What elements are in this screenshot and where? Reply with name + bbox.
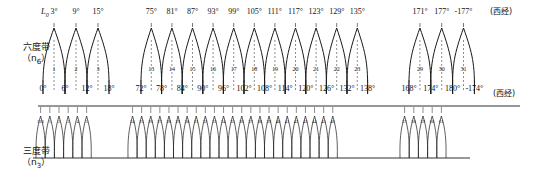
three-degree-zone-number-17: 35 [230,120,235,125]
zone-boundary-label-13: 126° [319,85,334,93]
six-degree-zone-number-12: 22 [334,66,340,72]
three-degree-zone-number-7: 25 [139,120,144,125]
zone-boundary-label-7: 90° [197,85,208,93]
central-meridian-label-0: 3° [51,8,58,16]
origin-meridian-label: L0 [41,7,49,18]
three-degree-zone-number-21: 39 [267,120,272,125]
three-degree-zone-number-33: 61 [439,120,444,125]
three-degree-zone-number-20: 38 [257,120,262,125]
three-degree-zone-number-11: 29 [176,120,181,125]
zone-boundary-label-14: 132° [340,85,355,93]
zone-diagram-canvas [0,0,538,194]
six-degree-zone-number-0: 1 [53,66,56,72]
six-degree-zone-number-7: 17 [231,66,237,72]
three-degree-zone-number-16: 34 [221,120,226,125]
zone-boundary-label-9: 102° [237,85,252,93]
three-degree-zone-number-27: 45 [321,120,326,125]
west-longitude-note-mid: (西经) [493,90,515,98]
three-degree-zone-number-8: 26 [148,120,153,125]
central-meridian-label-13: 135° [350,8,365,16]
zone-boundary-label-6: 84° [177,85,188,93]
six-degree-zone-number-2: 3 [97,66,100,72]
three-degree-zone-number-9: 27 [157,120,162,125]
central-meridian-label-8: 105° [247,8,262,16]
central-meridian-label-3: 75° [146,8,157,16]
central-meridian-label-15: 177° [434,8,449,16]
three-degree-zone-number-2: 2 [58,120,60,125]
three-degree-zone-number-1: 1 [49,120,51,125]
zone-boundary-label-10: 108° [257,85,272,93]
three-degree-zone-number-14: 32 [203,120,208,125]
zone-boundary-label-19: -174° [465,85,483,93]
three-degree-zone-number-19: 37 [248,120,253,125]
central-meridian-label-10: 117° [288,8,303,16]
three-degree-zone-number-18: 36 [239,120,244,125]
zone-boundary-label-1: 6° [62,85,69,93]
three-degree-row-label-sub: （n3） [6,157,66,171]
zone-boundary-label-2: 12° [82,85,93,93]
three-degree-row-label-main: 三度带 [6,146,66,157]
six-degree-zone-number-8: 18 [251,66,257,72]
six-degree-row-label-main: 六度带 [6,42,66,53]
six-degree-zone-number-6: 16 [210,66,216,72]
three-degree-zone-number-26: 44 [312,120,317,125]
six-degree-zone-number-13: 23 [354,66,360,72]
three-degree-zone-number-5: 5 [86,120,88,125]
central-meridian-label-2: 15° [93,8,104,16]
three-degree-zone-number-13: 31 [194,120,199,125]
three-degree-zone-number-15: 33 [212,120,217,125]
central-meridian-label-12: 129° [329,8,344,16]
six-degree-zone-number-9: 19 [272,66,278,72]
three-degree-zone-number-28: 46 [330,120,335,125]
three-degree-zone-number-25: 43 [303,120,308,125]
three-degree-zone-number-30: 58 [411,120,416,125]
central-meridian-label-1: 9° [73,8,80,16]
central-meridian-label-16: -177° [455,8,473,16]
three-degree-zone-number-29: 57 [402,120,407,125]
zone-boundary-label-18: 180° [445,85,460,93]
zone-boundary-label-3: 18° [104,85,115,93]
central-meridian-label-11: 123° [309,8,324,16]
zone-boundary-label-0: 0° [40,85,47,93]
six-degree-zone-number-4: 14 [169,66,175,72]
three-degree-zone-number-12: 30 [185,120,190,125]
six-degree-row-label-sub: （n6） [6,53,66,67]
three-degree-zone-number-32: 60 [430,120,435,125]
three-degree-zone-number-31: 59 [421,120,426,125]
central-meridian-label-7: 99° [228,8,239,16]
zone-boundary-label-5: 78° [156,85,167,93]
six-degree-zone-number-3: 13 [148,66,154,72]
three-degree-row-label: 三度带 （n3） [6,146,66,171]
central-meridian-label-6: 93° [208,8,219,16]
zone-boundary-label-4: 72° [136,85,147,93]
central-meridian-label-14: 171° [412,8,427,16]
three-degree-zone-number-23: 41 [285,120,290,125]
three-degree-zone-number-4: 4 [76,120,78,125]
central-meridian-label-4: 81° [166,8,177,16]
west-longitude-note-top: (西经) [490,8,512,16]
zone-boundary-label-15: 138° [360,85,375,93]
zone-boundary-label-11: 114° [278,85,293,93]
six-degree-zone-number-14: 29 [417,66,423,72]
zone-boundary-label-16: 168° [402,85,417,93]
six-degree-row-label: 六度带 （n6） [6,42,66,67]
six-degree-zone-number-1: 2 [75,66,78,72]
six-degree-zone-number-10: 20 [293,66,299,72]
six-degree-zone-number-11: 21 [313,66,319,72]
zone-diagram-figure: L0 六度带 （n6） 三度带 （n3） 3°9°15°75°81°87°93°… [0,0,538,194]
three-degree-zone-number-22: 40 [276,120,281,125]
zone-boundary-label-12: 120° [298,85,313,93]
six-degree-zone-number-5: 15 [190,66,196,72]
six-degree-zone-number-16: 31 [461,66,467,72]
three-degree-zone-number-6: 24 [130,120,135,125]
zone-boundary-label-17: 174° [423,85,438,93]
three-degree-zone-number-24: 42 [294,120,299,125]
six-degree-zone-number-15: 30 [439,66,445,72]
three-degree-zone-number-10: 28 [166,120,171,125]
three-degree-zone-number-0: 120 [37,120,44,125]
central-meridian-label-9: 111° [267,8,282,16]
three-degree-zone-number-3: 3 [67,120,69,125]
central-meridian-label-5: 87° [187,8,198,16]
origin-meridian-subscript: 0 [46,12,49,18]
zone-boundary-label-8: 96° [218,85,229,93]
